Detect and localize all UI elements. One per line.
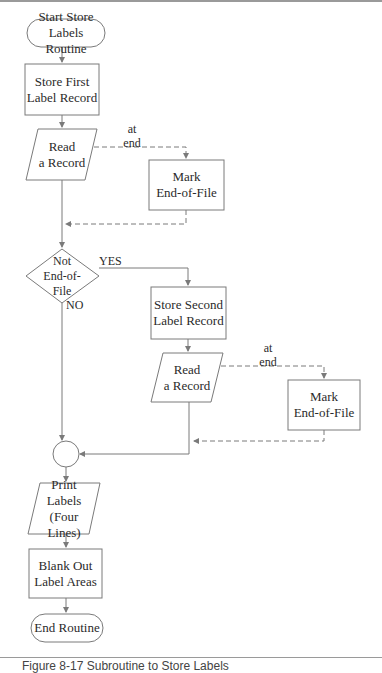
start-label-2: Labels Routine	[45, 25, 86, 56]
start-label-1: Start Store	[38, 9, 93, 24]
print-label-1: Print	[51, 477, 76, 492]
at-end-1-line1: at	[128, 122, 137, 136]
read2-label-1: Read	[174, 362, 201, 377]
store-second-box: Store SecondLabel Record	[151, 287, 226, 339]
mark1-box: MarkEnd-of-File	[149, 160, 224, 210]
mark2-box: MarkEnd-of-File	[288, 380, 360, 430]
print-label-2: Labels	[47, 493, 82, 508]
connector-shape	[53, 441, 79, 467]
end-label: End Routine	[34, 620, 99, 636]
end-terminal: End Routine	[31, 614, 103, 642]
read2-label-2: a Record	[164, 378, 211, 393]
mark1-label-1: Mark	[172, 169, 200, 184]
at-end-label-2: atend	[256, 341, 280, 369]
at-end-2-line1: at	[264, 341, 273, 355]
read1-label-2: a Record	[39, 155, 86, 170]
at-end-label-1: atend	[120, 122, 144, 150]
figure-caption: Figure 8-17 Subroutine to Store Labels	[22, 659, 229, 673]
store-second-label-1: Store Second	[154, 297, 223, 312]
at-end-1-line2: end	[123, 136, 140, 150]
store-first-box: Store FirstLabel Record	[25, 64, 99, 115]
print-box: PrintLabels(Four Lines)	[32, 483, 96, 534]
at-end-2-line2: end	[259, 355, 276, 369]
store-first-label-1: Store First	[35, 74, 90, 89]
decision-label-3: File	[53, 284, 72, 298]
blank-label-2: Label Areas	[34, 574, 96, 589]
start-terminal: Start StoreLabels Routine	[27, 19, 105, 47]
mark2-label-1: Mark	[310, 389, 338, 404]
store-second-label-2: Label Record	[153, 313, 223, 328]
no-label: NO	[66, 298, 83, 312]
blank-label-1: Blank Out	[39, 558, 93, 573]
read2-box: Reada Record	[156, 353, 218, 402]
decision-label-1: Not	[53, 254, 71, 268]
blank-box: Blank OutLabel Areas	[29, 549, 102, 598]
mark1-label-2: End-of-File	[156, 185, 217, 200]
read1-box: Reada Record	[30, 129, 94, 180]
store-first-label-2: Label Record	[27, 90, 97, 105]
yes-label: YES	[99, 254, 122, 268]
bottom-rule	[0, 657, 382, 658]
print-label-3: (Four Lines)	[47, 509, 80, 540]
mark2-label-2: End-of-File	[294, 405, 355, 420]
read1-label-1: Read	[49, 139, 76, 154]
decision-label-2: End-of-	[43, 269, 80, 283]
decision-diamond: NotEnd-of-File	[36, 253, 88, 299]
